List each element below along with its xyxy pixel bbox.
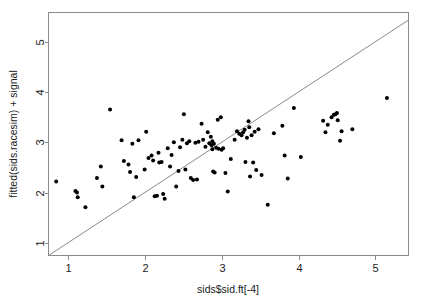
data-point <box>147 156 151 160</box>
data-point <box>100 185 104 189</box>
data-point <box>95 176 99 180</box>
data-point <box>122 159 126 163</box>
scatter-plot-figure: 1234512345 sids$sid.ft[-4] fitted(sids.r… <box>0 0 428 300</box>
data-point <box>180 138 184 142</box>
data-point <box>283 153 287 157</box>
data-point <box>286 177 290 181</box>
y-tick-label: 2 <box>34 190 46 196</box>
data-point <box>163 197 167 201</box>
data-point <box>247 119 251 123</box>
data-point <box>191 178 195 182</box>
identity-reference-line <box>49 20 409 255</box>
axis-ticks <box>45 43 376 260</box>
data-point <box>151 158 155 162</box>
data-point <box>321 119 325 123</box>
data-point <box>226 190 230 194</box>
data-point <box>201 138 205 142</box>
data-point <box>182 112 186 116</box>
data-point <box>200 122 204 126</box>
x-tick-label: 1 <box>65 262 71 274</box>
data-point <box>229 157 233 161</box>
data-point <box>243 128 247 132</box>
data-point <box>99 164 103 168</box>
x-tick-label: 3 <box>219 262 225 274</box>
data-point <box>54 180 58 184</box>
data-point <box>166 146 170 150</box>
data-point <box>223 171 227 175</box>
data-point <box>157 151 161 155</box>
data-point <box>76 195 80 199</box>
data-point <box>272 131 276 135</box>
x-tick-label: 4 <box>296 262 302 274</box>
data-point <box>266 203 270 207</box>
data-point <box>108 108 112 112</box>
data-point <box>257 127 261 131</box>
data-point <box>168 164 172 168</box>
data-point <box>172 140 176 144</box>
chart-canvas: 1234512345 sids$sid.ft[-4] fitted(sids.r… <box>0 0 428 300</box>
data-point <box>254 168 258 172</box>
data-point <box>120 138 124 142</box>
data-point <box>250 133 254 137</box>
data-points-layer <box>54 96 389 209</box>
data-point <box>260 173 264 177</box>
data-point <box>335 111 339 115</box>
data-point <box>128 170 132 174</box>
data-point <box>299 155 303 159</box>
x-tick-label: 2 <box>142 262 148 274</box>
data-point <box>251 160 255 164</box>
data-point <box>350 127 354 131</box>
data-point <box>174 185 178 189</box>
data-point <box>83 205 87 209</box>
data-point <box>177 169 181 173</box>
x-axis-title: sids$sid.ft[-4] <box>197 283 259 295</box>
data-point <box>233 138 237 142</box>
data-point <box>203 145 207 149</box>
data-point <box>132 195 136 199</box>
data-point <box>137 138 141 142</box>
y-axis-title: fitted(sids.racesim) + signal <box>7 70 19 198</box>
data-point <box>134 175 138 179</box>
data-point <box>219 115 223 119</box>
data-point <box>160 160 164 164</box>
data-point <box>143 167 147 171</box>
data-point <box>292 106 296 110</box>
data-point <box>75 191 79 195</box>
data-point <box>170 153 174 157</box>
data-point <box>253 130 257 134</box>
data-point <box>150 153 154 157</box>
data-point <box>187 139 191 143</box>
y-tick-label: 4 <box>34 89 46 95</box>
data-point <box>212 142 216 146</box>
data-point <box>247 125 251 129</box>
data-point <box>280 124 284 128</box>
data-point <box>183 167 187 171</box>
data-point <box>323 130 327 134</box>
data-point <box>326 123 330 127</box>
y-tick-label: 5 <box>34 39 46 45</box>
y-tick-label: 1 <box>34 240 46 246</box>
data-point <box>195 178 199 182</box>
axis-tick-labels: 1234512345 <box>34 39 379 273</box>
data-point <box>385 96 389 100</box>
data-point <box>213 170 217 174</box>
x-tick-label: 5 <box>372 262 378 274</box>
data-point <box>338 139 342 143</box>
data-point <box>245 136 249 140</box>
y-tick-label: 3 <box>34 139 46 145</box>
data-point <box>216 118 220 122</box>
data-point <box>336 118 340 122</box>
data-point <box>206 130 210 134</box>
data-point <box>248 175 252 179</box>
data-point <box>144 130 148 134</box>
data-point <box>210 147 214 151</box>
data-point <box>340 129 344 133</box>
data-point <box>155 194 159 198</box>
data-point <box>127 162 131 166</box>
data-point <box>221 146 225 150</box>
data-point <box>209 135 213 139</box>
data-point <box>130 142 134 146</box>
data-point <box>161 192 165 196</box>
plot-frame <box>49 13 409 256</box>
data-point <box>197 140 201 144</box>
